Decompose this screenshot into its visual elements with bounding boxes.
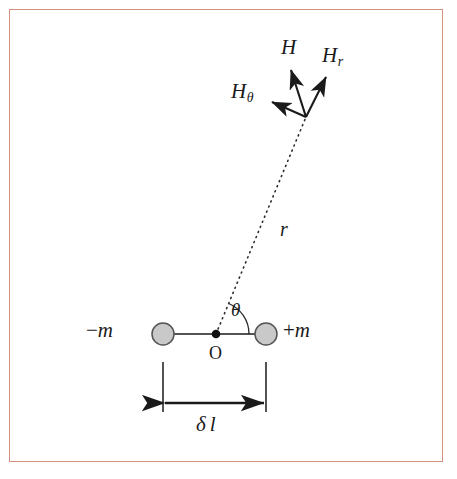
- origin-point-dot: [212, 330, 221, 339]
- label-pole-positive-m: +m: [283, 320, 310, 341]
- label-pole-negative-m: −m: [86, 320, 113, 341]
- vector-H: [291, 70, 306, 117]
- subscript-theta: θ: [247, 90, 254, 105]
- clipped-caption-bleed: –– –––– ––––– – – – –––: [0, 470, 457, 479]
- label-dipole-length-delta-l: δl: [196, 414, 216, 435]
- pole-negative-circle: [152, 323, 174, 345]
- label-origin-O: O: [209, 344, 222, 362]
- label-vector-H-r: Hr: [322, 45, 343, 69]
- dipole-field-diagram: [0, 0, 457, 479]
- label-vector-H-theta: Hθ: [231, 81, 253, 105]
- figure-root: H Hr Hθ r θ −m +m O δl –– –––– ––––– – –…: [0, 0, 457, 479]
- vector-H-r: [306, 77, 326, 117]
- clipped-caption-text: –– –––– ––––– – – – –––: [12, 470, 228, 478]
- delta-symbol: δ: [196, 412, 206, 436]
- subscript-r: r: [338, 54, 343, 69]
- radial-distance-dotted-line: [216, 117, 306, 334]
- label-angle-theta: θ: [231, 300, 240, 319]
- label-radial-distance-r: r: [280, 219, 288, 239]
- pole-positive-circle: [255, 323, 277, 345]
- minus-sign: −: [86, 318, 98, 342]
- plus-sign: +: [283, 318, 295, 342]
- label-vector-H: H: [281, 37, 296, 58]
